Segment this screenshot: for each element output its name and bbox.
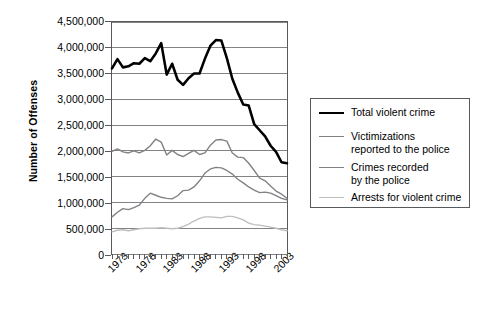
y-axis-tick-mark [105,255,111,256]
legend-item-label: Total violent crime [351,106,435,119]
y-axis-tick-label: 3,000,000 [9,94,104,104]
legend-item: Crimes recorded by the police [319,161,429,186]
y-axis-tick-label: 0 [9,250,104,260]
y-axis-tick-label: 4,500,000 [9,16,104,26]
legend-item-label: Victimizations reported to the police [351,130,450,155]
y-axis-tick-label: 1,500,000 [9,172,104,182]
data-series-line [112,216,287,231]
y-axis-tick-label: 1,000,000 [9,198,104,208]
data-series-line [112,40,287,163]
legend-item: Victimizations reported to the police [319,130,450,155]
data-series-line [112,167,287,216]
legend-item: Total violent crime [319,106,435,119]
legend-item: Arrests for violent crime [319,191,461,204]
data-series-line [112,139,287,198]
legend-swatch-line [319,167,344,168]
legend-item-label: Arrests for violent crime [351,191,461,204]
legend-item-label: Crimes recorded by the police [351,161,429,186]
data-series-layer [112,22,287,254]
legend-swatch-line [319,197,344,198]
y-axis-tick-label: 3,500,000 [9,68,104,78]
plot-area [111,21,288,255]
legend-swatch-line [319,136,344,137]
y-axis-tick-label: 2,500,000 [9,120,104,130]
y-axis-tick-label: 2,000,000 [9,146,104,156]
legend-swatch-line [319,112,344,114]
chart-figure: Number of Offenses 4,500,0004,000,0003,5… [0,0,487,311]
chart-legend: Total violent crimeVictimizations report… [310,98,470,208]
y-axis-tick-label: 500,000 [9,224,104,234]
y-axis-tick-label: 4,000,000 [9,42,104,52]
